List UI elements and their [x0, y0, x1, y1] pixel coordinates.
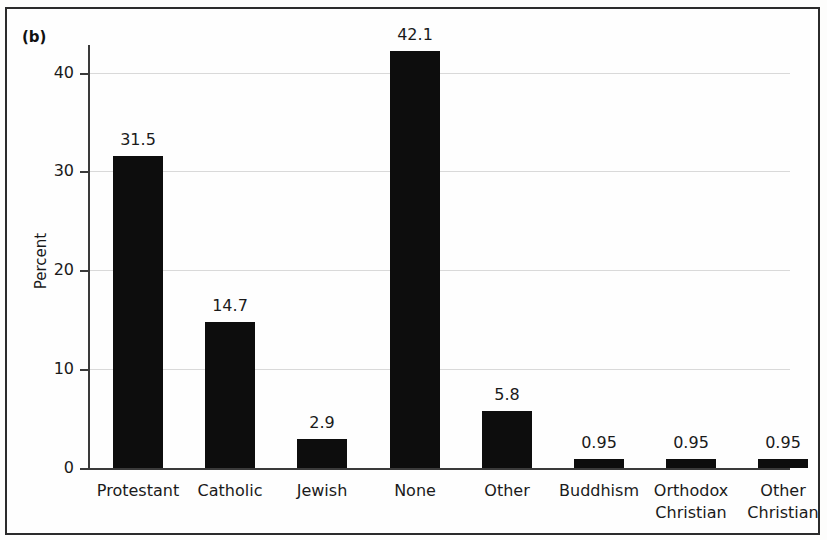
- y-axis-line: [88, 45, 90, 469]
- y-tick-label-30: 30: [34, 161, 74, 180]
- y-tick-label-40-wrap: 40: [28, 63, 74, 83]
- y-tick-mark-0: [80, 468, 89, 470]
- bar: [482, 411, 532, 468]
- bar-value-label: 14.7: [190, 296, 270, 315]
- x-tick-label: OtherChristian: [728, 480, 827, 524]
- bar-value-label: 0.95: [651, 433, 731, 452]
- x-tick-label-line: Other: [728, 480, 827, 502]
- y-tick-mark-20: [80, 270, 89, 272]
- y-tick-label-0-wrap: 0: [28, 458, 74, 478]
- bar-value-label: 2.9: [282, 413, 362, 432]
- bar: [297, 439, 347, 468]
- y-axis-title: Percent: [32, 216, 50, 306]
- y-tick-label-10: 10: [34, 359, 74, 378]
- y-tick-label-10-wrap: 10: [28, 359, 74, 379]
- bar-value-label: 31.5: [98, 130, 178, 149]
- bar-value-label: 5.8: [467, 385, 547, 404]
- y-tick-mark-30: [80, 171, 89, 173]
- bar-chart-plot-area: 40 30 20 10 0 Percent 31.5Protestant14.7…: [0, 0, 827, 540]
- bar: [758, 459, 808, 468]
- y-tick-label-30-wrap: 30: [28, 161, 74, 181]
- bar-value-label: 0.95: [743, 433, 823, 452]
- bar: [390, 51, 440, 468]
- bar: [205, 322, 255, 468]
- y-tick-label-40: 40: [34, 63, 74, 82]
- y-tick-mark-40: [80, 73, 89, 75]
- y-tick-mark-10: [80, 369, 89, 371]
- y-tick-label-0: 0: [34, 458, 74, 477]
- bar: [574, 459, 624, 468]
- x-tick-label-line: Christian: [728, 502, 827, 524]
- bar-value-label: 0.95: [559, 433, 639, 452]
- bar: [113, 156, 163, 468]
- figure-panel: (b) 40 30 20 10 0 Percent: [0, 0, 827, 540]
- bar-value-label: 42.1: [375, 25, 455, 44]
- bar: [666, 459, 716, 468]
- x-axis-line: [88, 468, 790, 470]
